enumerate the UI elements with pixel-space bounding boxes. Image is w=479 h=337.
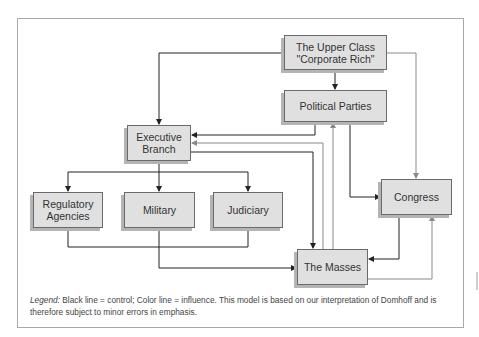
node-regulatory-line2: Agencies [43,210,94,222]
node-executive-line2: Branch [136,143,182,155]
node-upper-class-line2: "Corporate Rich" [296,53,375,65]
node-military: Military [124,192,195,228]
node-executive-branch: Executive Branch [127,125,191,161]
node-judiciary-label: Judiciary [227,204,268,216]
node-congress-label: Congress [394,191,439,203]
node-congress: Congress [381,179,452,215]
legend: Legend: Black line = control; Color line… [30,294,460,318]
node-judiciary: Judiciary [213,192,283,228]
node-masses-label: The Masses [304,261,361,273]
node-military-label: Military [143,204,176,216]
connector-lines [0,0,479,337]
node-the-masses: The Masses [297,249,368,285]
node-political-parties-label: Political Parties [300,100,372,112]
node-regulatory-agencies: Regulatory Agencies [33,192,103,228]
legend-label: Legend: [30,295,60,305]
node-upper-class: The Upper Class "Corporate Rich" [284,35,387,70]
node-executive-line1: Executive [136,131,182,143]
node-upper-class-line1: The Upper Class [296,41,375,53]
node-regulatory-line1: Regulatory [43,198,94,210]
legend-text: Black line = control; Color line = influ… [30,295,437,317]
node-political-parties: Political Parties [284,90,387,122]
